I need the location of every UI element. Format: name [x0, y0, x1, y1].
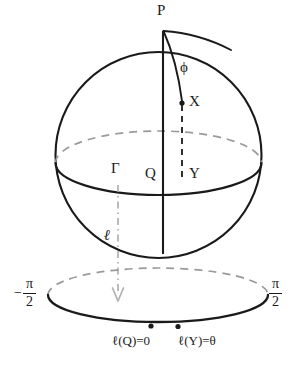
axis-endpoint-left: − π 2: [14, 277, 36, 309]
label-point-X: X: [189, 94, 200, 109]
axis-endpoint-left-numerator: π: [23, 277, 36, 294]
axis-endpoint-left-sign: −: [14, 286, 23, 301]
equator-front-arc: [56, 163, 262, 195]
sphere-projection-diagram: P ϕ X Y Q Γ ℓ ℓ(Q)=0 ℓ(Y)=θ − π 2 π 2: [0, 0, 301, 367]
diagram-canvas: [0, 0, 301, 367]
axis-endpoint-right-fraction: π 2: [269, 277, 282, 309]
axis-endpoint-left-fraction: π 2: [23, 277, 36, 309]
label-point-Q: Q: [145, 166, 156, 181]
sphere-top-highlight-arc: [164, 31, 232, 50]
axis-endpoint-left-denominator: 2: [23, 294, 36, 310]
interval-back-arc: [48, 268, 268, 295]
label-curve-gamma: Γ: [111, 161, 120, 176]
label-map-ell: ℓ: [104, 228, 110, 243]
label-value-at-Q: ℓ(Q)=0: [112, 334, 150, 347]
interval-dot-Y: [175, 324, 180, 329]
axis-endpoint-right: π 2: [269, 277, 282, 309]
interval-front-arc: [48, 295, 268, 322]
equator-back-arc: [56, 131, 262, 163]
point-X-dot: [179, 100, 184, 105]
label-angle-phi: ϕ: [180, 60, 188, 75]
label-pole-P: P: [157, 3, 165, 18]
axis-endpoint-right-denominator: 2: [269, 294, 282, 310]
label-value-at-Y: ℓ(Y)=θ: [178, 334, 216, 347]
axis-endpoint-right-numerator: π: [269, 277, 282, 294]
interval-dot-Q: [148, 323, 153, 328]
label-point-Y: Y: [189, 166, 200, 181]
sphere-outline: [56, 52, 262, 258]
